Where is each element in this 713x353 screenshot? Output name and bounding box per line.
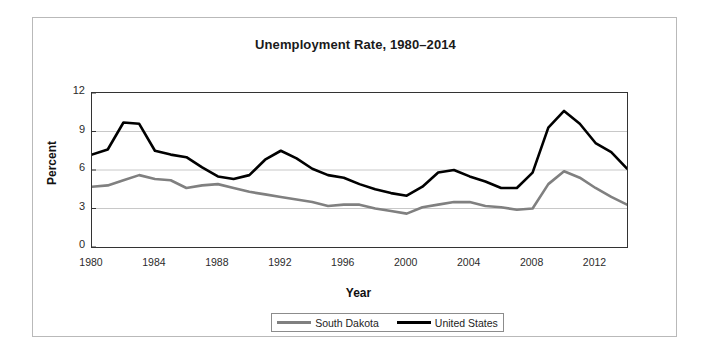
legend-item[interactable]: United States (397, 317, 498, 329)
x-tick-label: 1980 (71, 256, 111, 268)
x-tick-label: 2004 (449, 256, 489, 268)
x-tick-label: 1996 (323, 256, 363, 268)
x-tick-label: 2008 (512, 256, 552, 268)
y-tick-label: 0 (59, 238, 85, 250)
legend-label: United States (435, 317, 498, 329)
y-tick-label: 6 (59, 161, 85, 173)
x-tick-label: 1984 (134, 256, 174, 268)
legend-item[interactable]: South Dakota (277, 317, 379, 329)
legend-color-swatch (397, 321, 431, 324)
x-tick-label: 1988 (197, 256, 237, 268)
y-tick-label: 3 (59, 200, 85, 212)
series-line-united-states (92, 111, 627, 196)
series-line-south-dakota (92, 171, 627, 213)
plot-area (91, 92, 628, 248)
chart-legend: South DakotaUnited States (271, 313, 504, 332)
x-tick-label: 1992 (260, 256, 300, 268)
legend-color-swatch (277, 321, 311, 324)
x-tick-label: 2000 (386, 256, 426, 268)
chart-figure: Unemployment Rate, 1980–2014 Percent Yea… (32, 17, 677, 337)
plot-wrapper: Percent Year 036912 19801984198819921996… (33, 18, 678, 338)
gridlines (92, 93, 627, 247)
series-lines (92, 111, 627, 214)
y-tick-label: 12 (59, 84, 85, 96)
legend-label: South Dakota (315, 317, 379, 329)
x-axis-label: Year (91, 286, 626, 300)
y-axis-label: Percent (45, 123, 59, 203)
y-tick-label: 9 (59, 123, 85, 135)
line-chart-svg (92, 93, 627, 247)
x-tick-label: 2012 (575, 256, 615, 268)
